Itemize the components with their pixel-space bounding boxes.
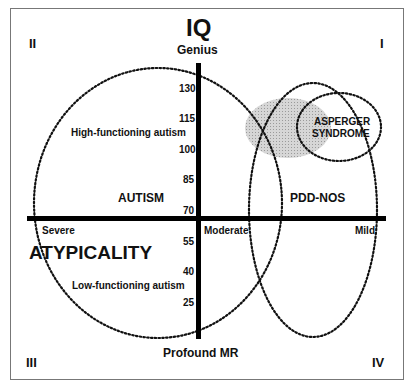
autism-label: AUTISM <box>118 191 164 205</box>
iq-tick-25: 25 <box>183 297 194 308</box>
diagram-graphics <box>0 0 413 391</box>
iq-tick-115: 115 <box>179 113 195 124</box>
low-functioning-autism-label: Low-functioning autism <box>72 280 185 291</box>
atypicality-axis <box>27 216 386 221</box>
quadrant-label-i: I <box>380 36 384 51</box>
severity-severe: Severe <box>42 225 75 236</box>
axis-bottom-label: Profound MR <box>163 346 238 360</box>
quadrant-label-ii: II <box>29 36 36 51</box>
pdd-nos-label: PDD-NOS <box>290 191 345 205</box>
axis-top-label: Genius <box>177 43 218 57</box>
quadrant-label-iv: IV <box>372 355 384 370</box>
diagram-title: IQ <box>186 14 211 42</box>
asperger-label-line2: SYNDROME <box>312 128 370 139</box>
high-functioning-autism-label: High-functioning autism <box>71 127 186 138</box>
atypicality-label: ATYPICALITY <box>29 242 152 264</box>
iq-tick-100: 100 <box>179 144 196 155</box>
iq-tick-85: 85 <box>183 174 194 185</box>
iq-tick-40: 40 <box>183 266 194 277</box>
asperger-label-line1: ASPERGER <box>314 116 370 127</box>
iq-tick-55: 55 <box>183 236 194 247</box>
quadrant-label-iii: III <box>26 355 37 370</box>
iq-tick-70: 70 <box>183 205 194 216</box>
severity-moderate: Moderate <box>204 225 248 236</box>
iq-axis <box>196 63 201 339</box>
severity-mild: Mild <box>355 225 375 236</box>
iq-tick-130: 130 <box>179 83 196 94</box>
